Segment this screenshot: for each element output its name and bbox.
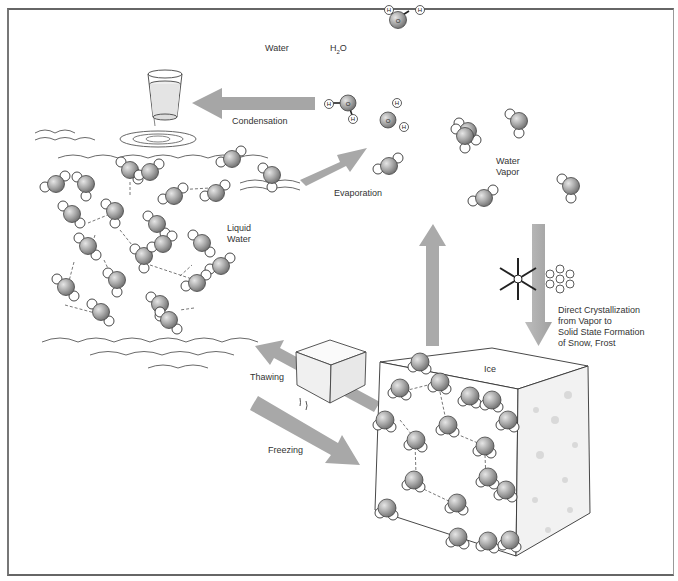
thawing-label: Thawing: [250, 372, 284, 383]
svg-text:H: H: [395, 100, 399, 106]
freezing-label: Freezing: [268, 445, 303, 456]
diagram-art: HHO HHO HHO: [0, 0, 678, 581]
svg-text:H: H: [327, 101, 331, 107]
svg-text:H: H: [402, 124, 406, 130]
water-vapor-line-1: Water: [496, 156, 520, 167]
condensation-arrow: [192, 88, 315, 119]
evaporation-label: Evaporation: [334, 188, 382, 199]
labelled-molecule-2: HHO: [380, 99, 409, 132]
water-vapor-label: Water Vapor: [496, 156, 520, 178]
labelled-molecule-1: HHO: [325, 95, 358, 124]
crystallization-line-2: from Vapor to: [558, 316, 645, 327]
svg-text:O: O: [346, 101, 351, 107]
freezing-arrow: [250, 396, 360, 465]
water-vapor-line-2: Vapor: [496, 167, 520, 178]
direct-crystallization-label: Direct Crystallization from Vapor to Sol…: [558, 305, 645, 349]
svg-text:O: O: [396, 18, 401, 24]
svg-text:H: H: [351, 116, 355, 122]
svg-text:O: O: [386, 118, 391, 124]
sublimation-up-arrow: [419, 224, 446, 346]
ice-label: Ice: [484, 364, 496, 375]
snowflake-icon: [500, 258, 536, 300]
liquid-water-label: Liquid Water: [227, 223, 251, 245]
formula-label: H2O: [330, 43, 347, 58]
svg-text:H: H: [387, 7, 391, 13]
water-glass-icon: [120, 70, 196, 147]
snowflake-crystal-icon: [546, 265, 574, 293]
liquid-water-line-2: Water: [227, 234, 251, 245]
liquid-water-line-1: Liquid: [227, 223, 251, 234]
labelled-h2o-molecules: HHO HHO HHO: [325, 6, 425, 132]
condensation-label: Condensation: [232, 116, 288, 127]
svg-text:H: H: [418, 7, 422, 13]
crystallization-line-4: of Snow, Frost: [558, 338, 645, 349]
evaporation-arrow: [300, 148, 367, 186]
formula-o: O: [340, 43, 347, 53]
header-h2o-molecule-icon: HHO: [385, 6, 425, 29]
water-label: Water: [265, 43, 289, 54]
crystallization-line-1: Direct Crystallization: [558, 305, 645, 316]
crystallization-line-3: Solid State Formation: [558, 327, 645, 338]
